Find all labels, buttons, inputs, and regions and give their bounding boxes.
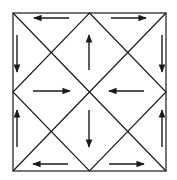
flow-diagram (0, 0, 177, 180)
